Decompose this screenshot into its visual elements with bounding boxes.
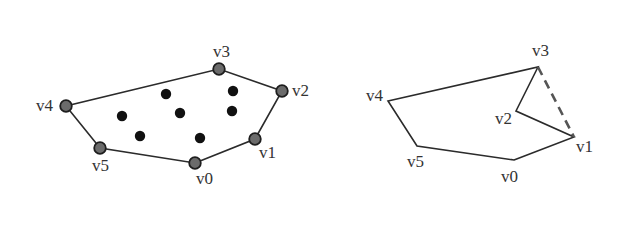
interior-point	[228, 86, 238, 96]
interior-point	[135, 131, 145, 141]
hull-vertex-v4	[60, 100, 72, 112]
left-label-v2: v2	[292, 81, 309, 100]
right-label-v4: v4	[366, 86, 384, 105]
left-label-v1: v1	[259, 143, 276, 162]
interior-point	[195, 133, 205, 143]
polygon-diagram: v0v1v2v3v4v5 v0v1v2v3v4v5	[0, 0, 618, 230]
interior-points	[117, 86, 238, 143]
dashed-edge-v3-v1	[538, 67, 574, 137]
hull-vertex-v3	[213, 63, 225, 75]
right-polygon-concave: v0v1v2v3v4v5	[366, 41, 593, 186]
hull-vertices	[60, 63, 288, 169]
right-label-v0: v0	[501, 167, 518, 186]
left-label-v5: v5	[92, 156, 109, 175]
left-label-v3: v3	[213, 42, 230, 61]
interior-point	[117, 111, 127, 121]
left-label-v0: v0	[196, 169, 213, 188]
left-label-v4: v4	[36, 96, 54, 115]
right-label-v5: v5	[407, 152, 424, 171]
left-polygon-with-interior-points: v0v1v2v3v4v5	[36, 42, 309, 188]
hull-vertex-v2	[276, 85, 288, 97]
interior-point	[227, 106, 237, 116]
interior-point	[161, 89, 171, 99]
hull-vertex-v0	[189, 157, 201, 169]
right-label-v2: v2	[495, 109, 512, 128]
right-label-v1: v1	[576, 137, 593, 156]
interior-point	[175, 108, 185, 118]
hull-vertex-v5	[94, 142, 106, 154]
vertex-labels: v0v1v2v3v4v5	[366, 41, 593, 186]
right-label-v3: v3	[532, 41, 549, 60]
